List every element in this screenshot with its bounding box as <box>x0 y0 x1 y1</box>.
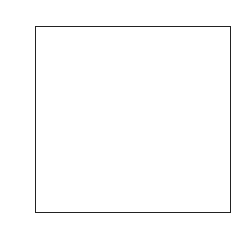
pixel-grid <box>36 27 230 212</box>
image-plot-area <box>35 26 231 213</box>
